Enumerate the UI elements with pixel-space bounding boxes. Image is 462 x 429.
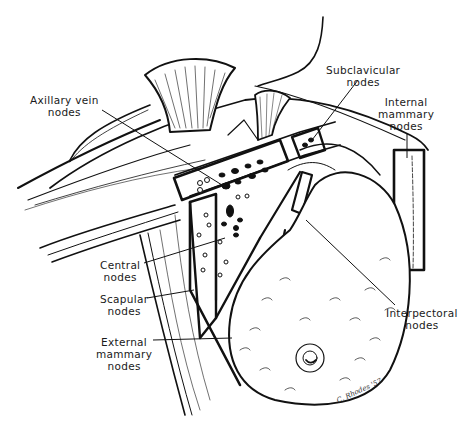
anatomy-illustration: C. Rhodes '57 Axillary vein nodes Subcla… xyxy=(0,0,462,429)
label-interpectoral-nodes: Interpectoral nodes xyxy=(386,307,458,331)
breast-outline xyxy=(229,172,410,404)
label-subclavicular-nodes: Subclavicular nodes xyxy=(326,64,400,88)
label-scapular-nodes: Scapular nodes xyxy=(100,293,148,317)
label-external-mammary-nodes: External mammary nodes xyxy=(96,336,152,372)
label-central-nodes: Central nodes xyxy=(100,259,140,283)
label-axillary-vein-nodes: Axillary vein nodes xyxy=(30,94,99,118)
neck-outline xyxy=(258,17,323,86)
label-internal-mammary-nodes: Internal mammary nodes xyxy=(378,96,434,132)
